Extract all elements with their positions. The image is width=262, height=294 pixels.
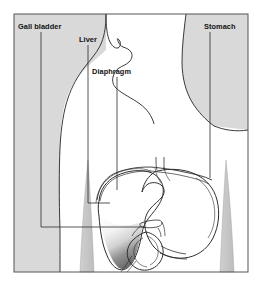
label-gall-bladder: Gall bladder [18,22,61,31]
anatomy-figure: Gall bladder Liver Diaphragm Stomach [0,0,262,294]
label-liver: Liver [79,35,97,44]
label-stomach: Stomach [204,22,236,31]
anatomy-diagram-svg: Gall bladder Liver Diaphragm Stomach [0,0,262,294]
label-diaphragm: Diaphragm [92,67,131,76]
